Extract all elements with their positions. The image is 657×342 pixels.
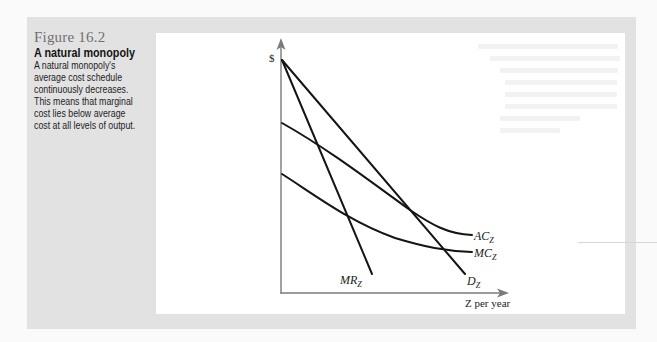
curves [282,60,472,274]
demand-curve-d [282,60,465,274]
y-axis-label: $ [269,52,275,64]
natural-monopoly-chart: $ ACZ MCZ MRZ DZ Z per year [0,0,657,342]
ac-curve-label: ACZ [473,229,494,245]
x-axis-label: Z per year [465,297,511,309]
d-curve-label: DZ [466,274,481,290]
mr-curve-label: MRZ [339,273,362,289]
marginal-revenue-curve-mr [282,60,372,274]
mc-curve-label: MCZ [473,246,497,262]
average-cost-curve-ac [282,123,472,235]
